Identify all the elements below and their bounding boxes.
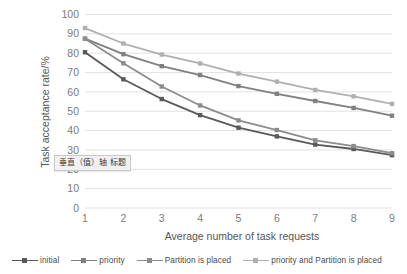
- legend-item[interactable]: priority and Partition is placed: [243, 256, 382, 265]
- series-marker: [121, 77, 125, 81]
- legend-marker-icon: [81, 258, 86, 263]
- x-axis-tick-label: 5: [236, 212, 242, 224]
- series-marker: [121, 52, 125, 56]
- y-axis-tick-label: 60: [67, 86, 79, 98]
- legend-swatch-icon: [243, 256, 269, 265]
- series-marker: [313, 142, 317, 146]
- series-marker: [160, 52, 164, 56]
- series-marker: [313, 88, 317, 92]
- plot-area: 0102030405060708090100 123456789 Task ac…: [0, 0, 407, 246]
- legend-marker-icon: [147, 258, 152, 263]
- legend-item-label: priority and Partition is placed: [271, 256, 382, 265]
- series-marker: [313, 99, 317, 103]
- x-axis-ticks-group: 123456789: [82, 212, 395, 224]
- y-axis-tick-label: 40: [67, 124, 79, 136]
- legend-item[interactable]: initial: [12, 256, 59, 265]
- series-marker: [121, 61, 125, 65]
- series-marker: [390, 114, 394, 118]
- chart-container: 0102030405060708090100 123456789 Task ac…: [0, 0, 407, 274]
- series-marker: [160, 97, 164, 101]
- legend-swatch-icon: [71, 256, 97, 265]
- x-axis-tick-label: 8: [351, 212, 357, 224]
- series-marker: [83, 36, 87, 40]
- y-axis-tick-label: 80: [67, 47, 79, 59]
- series-marker: [83, 26, 87, 30]
- legend-marker-icon: [253, 258, 258, 263]
- y-axis-tick-label: 0: [73, 202, 79, 214]
- series-marker: [198, 73, 202, 77]
- x-axis-tick-label: 4: [197, 212, 203, 224]
- y-axis-tick-label: 10: [67, 182, 79, 194]
- y-axis-title: Task acceptance rate/%: [39, 56, 51, 167]
- y-axis-tick-label: 50: [67, 105, 79, 117]
- series-marker: [83, 50, 87, 54]
- series-marker: [198, 113, 202, 117]
- x-axis-tick-label: 6: [274, 212, 280, 224]
- series-marker: [160, 84, 164, 88]
- line-chart-svg: 0102030405060708090100 123456789 Task ac…: [0, 0, 407, 246]
- x-axis-title: Average number of task requests: [165, 230, 319, 242]
- series-marker: [275, 92, 279, 96]
- legend-item[interactable]: priority: [71, 256, 124, 265]
- y-axis-tick-label: 100: [61, 8, 79, 20]
- series-marker: [351, 144, 355, 148]
- x-axis-tick-label: 2: [120, 212, 126, 224]
- legend-marker-icon: [22, 258, 27, 263]
- x-axis-tick-label: 9: [389, 212, 395, 224]
- legend-swatch-icon: [12, 256, 38, 265]
- series-marker: [390, 151, 394, 155]
- legend-item[interactable]: Partition is placed: [137, 256, 232, 265]
- y-axis-ticks-group: 0102030405060708090100: [61, 8, 79, 214]
- y-axis-tick-label: 70: [67, 66, 79, 78]
- series-marker: [236, 71, 240, 75]
- series-marker: [275, 134, 279, 138]
- series-marker: [275, 128, 279, 132]
- y-axis-tick-label: 30: [67, 144, 79, 156]
- series-line: [85, 28, 392, 104]
- series-marker: [198, 103, 202, 107]
- series-marker: [236, 125, 240, 129]
- legend-item-label: Partition is placed: [165, 256, 232, 265]
- series-marker: [160, 64, 164, 68]
- series-marker: [313, 138, 317, 142]
- series-marker: [390, 102, 394, 106]
- series-line: [85, 39, 392, 116]
- series-marker: [351, 106, 355, 110]
- legend-item-label: priority: [99, 256, 124, 265]
- gridlines-group: [85, 15, 392, 209]
- series-marker: [351, 94, 355, 98]
- legend-swatch-icon: [137, 256, 163, 265]
- axis-title-tooltip: 垂直（值）轴 标题: [54, 155, 131, 171]
- y-axis-tick-label: 90: [67, 27, 79, 39]
- legend-item-label: initial: [40, 256, 59, 265]
- chart-legend: initialpriorityPartition is placedpriori…: [0, 248, 407, 272]
- x-axis-tick-label: 1: [82, 212, 88, 224]
- x-axis-tick-label: 3: [159, 212, 165, 224]
- series-marker: [236, 118, 240, 122]
- data-series: [83, 36, 394, 117]
- series-marker: [275, 79, 279, 83]
- series-marker: [236, 84, 240, 88]
- series-marker: [121, 41, 125, 45]
- series-marker: [198, 61, 202, 65]
- x-axis-tick-label: 7: [312, 212, 318, 224]
